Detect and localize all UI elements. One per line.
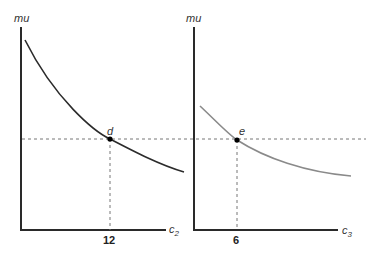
left-panel: mu c2 d 12 <box>14 12 184 246</box>
right-panel: mu c3 e 6 <box>186 12 353 246</box>
right-x-tick-label: 6 <box>233 234 239 246</box>
point-d-label: d <box>107 125 114 137</box>
left-y-axis-label: mu <box>14 12 29 24</box>
right-x-axis-label: c3 <box>342 224 353 239</box>
left-x-tick-label: 12 <box>103 234 115 246</box>
left-mu-curve <box>25 40 184 172</box>
right-mu-curve <box>200 106 351 176</box>
point-d <box>107 136 112 141</box>
marginal-utility-diagram: mu c2 d 12 mu c3 e 6 <box>0 0 366 257</box>
right-y-axis-label: mu <box>186 12 201 24</box>
point-e-label: e <box>239 125 245 137</box>
left-x-axis-label: c2 <box>169 223 180 238</box>
point-e <box>234 137 239 142</box>
